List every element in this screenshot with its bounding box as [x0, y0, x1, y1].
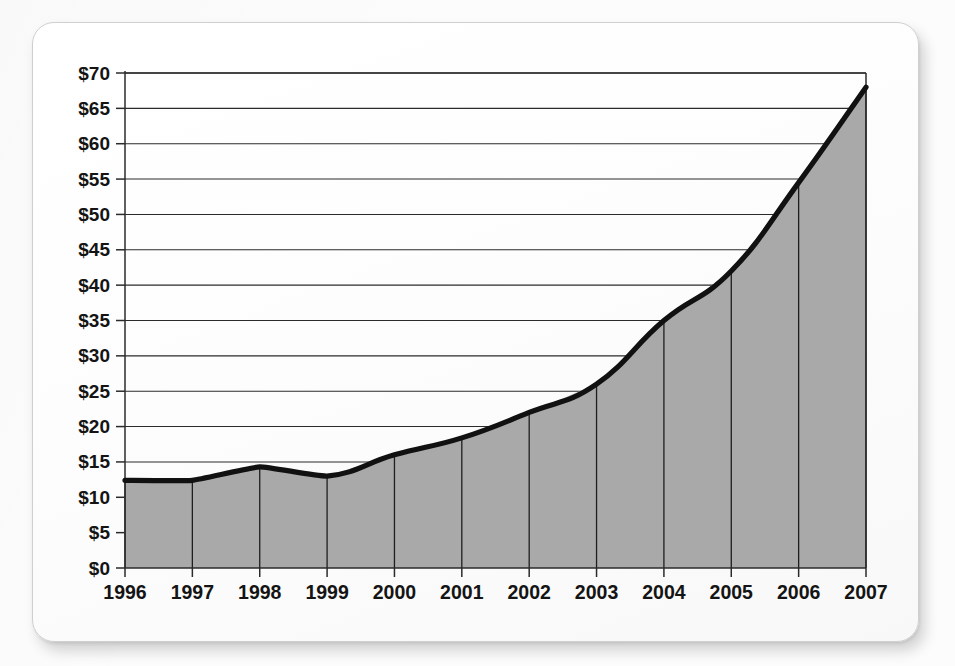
- area-chart: $0$5$10$15$20$25$30$35$40$45$50$55$60$65…: [0, 0, 955, 666]
- y-tick-label: $55: [78, 169, 110, 190]
- y-tick-label: $30: [78, 345, 110, 366]
- y-tick-label: $40: [78, 275, 110, 296]
- y-tick-label: $20: [78, 416, 110, 437]
- x-tick-label: 1998: [238, 581, 282, 603]
- x-tick-label: 2003: [575, 581, 619, 603]
- y-tick-label: $35: [78, 310, 110, 331]
- x-tick-label: 2006: [777, 581, 821, 603]
- y-tick-label: $50: [78, 204, 110, 225]
- chart-svg: $0$5$10$15$20$25$30$35$40$45$50$55$60$65…: [0, 0, 955, 666]
- y-tick-label: $15: [78, 451, 110, 472]
- y-tick-label: $25: [78, 381, 110, 402]
- y-tick-label: $70: [78, 63, 110, 84]
- y-axis-tick-labels: $0$5$10$15$20$25$30$35$40$45$50$55$60$65…: [78, 63, 110, 579]
- y-tick-label: $10: [78, 487, 110, 508]
- area-polygon: [125, 87, 866, 568]
- y-tick-label: $45: [78, 239, 110, 260]
- x-axis-tick-labels: 1996199719981999200020012002200320042005…: [103, 581, 887, 603]
- x-tick-label: 2004: [642, 581, 686, 603]
- x-tick-label: 2005: [710, 581, 754, 603]
- x-tick-label: 2000: [373, 581, 417, 603]
- x-tick-label: 2002: [507, 581, 551, 603]
- y-tick-label: $65: [78, 98, 110, 119]
- x-tick-label: 2001: [440, 581, 484, 603]
- y-tick-label: $60: [78, 133, 110, 154]
- x-tick-label: 1996: [103, 581, 147, 603]
- area-fill: [125, 87, 866, 568]
- x-tick-label: 1997: [171, 581, 214, 603]
- x-tick-label: 2007: [844, 581, 887, 603]
- y-tick-label: $5: [89, 522, 111, 543]
- y-tick-label: $0: [89, 558, 110, 579]
- x-tick-label: 1999: [305, 581, 349, 603]
